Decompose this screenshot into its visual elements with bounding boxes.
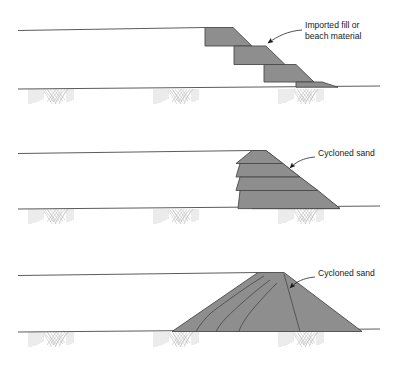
upper-surface-line-panel-1 [18, 28, 205, 31]
fill-lift-4 [296, 82, 338, 87]
upper-surface-line-panel-2 [18, 151, 252, 154]
embankment-diagram: Imported fill or beach material Cycloned… [0, 0, 397, 369]
hatch-cluster [29, 89, 73, 104]
panel-upstream-raise: Cycloned sand [18, 268, 380, 347]
hatch-cluster [279, 89, 323, 104]
hatch-cluster [279, 209, 323, 224]
diagram-canvas: Imported fill or beach material Cycloned… [0, 0, 397, 369]
fill-lift-2 [234, 46, 285, 65]
upper-surface-line-panel-3 [18, 273, 258, 276]
hatch-cluster [154, 89, 198, 104]
sand-layer-2 [236, 164, 300, 178]
panel-downstream-raise: Imported fill or beach material [18, 20, 380, 104]
hatch-cluster [29, 209, 73, 224]
leader-line-panel-2 [290, 157, 315, 168]
ground-hatch-group-panel-3 [29, 332, 323, 347]
hatch-cluster [279, 332, 323, 347]
sand-layer-4 [238, 191, 340, 209]
sand-layer-1 [236, 151, 283, 164]
sand-layer-3 [236, 177, 318, 191]
label-cycloned-sand-panel-2: Cycloned sand [318, 148, 375, 158]
hatch-cluster [29, 332, 73, 347]
label-cycloned-sand-panel-3: Cycloned sand [318, 268, 375, 278]
leader-line-panel-1 [268, 30, 302, 43]
fill-lift-3 [264, 65, 314, 83]
panel-centreline-raise: Cycloned sand [18, 148, 380, 224]
ground-hatch-group-panel-1 [29, 89, 323, 104]
hatch-cluster [154, 209, 198, 224]
label-imported-fill-line1: Imported fill or [305, 20, 360, 30]
fill-lift-1 [205, 28, 252, 47]
label-imported-fill-line2: beach material [305, 31, 361, 41]
embankment-body-panel-3 [172, 273, 362, 332]
ground-hatch-group-panel-2 [29, 209, 323, 224]
hatch-cluster [154, 332, 198, 347]
